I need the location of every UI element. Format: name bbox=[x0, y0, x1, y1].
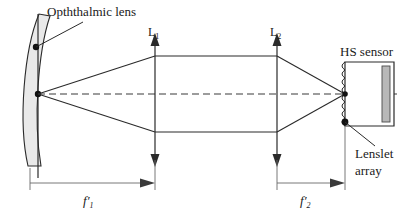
hs-sensor-label: HS sensor bbox=[340, 44, 394, 59]
ophthalmic-lens-body bbox=[23, 14, 50, 166]
ray-lower-diverging bbox=[38, 94, 155, 132]
focal-2-subscript: 2 bbox=[306, 201, 310, 210]
lens-L2-label: L2 bbox=[270, 25, 281, 41]
dim-f1-arrowhead bbox=[140, 179, 155, 188]
lens-L2-label-letter: L bbox=[270, 25, 277, 39]
ray-bundle-converging bbox=[277, 56, 345, 132]
dim-f2-arrowhead bbox=[330, 179, 345, 188]
ray-upper-diverging bbox=[38, 56, 155, 94]
focal-length-1-label: f′1 bbox=[83, 193, 93, 210]
lens-L1-label-subscript: 1 bbox=[155, 32, 159, 41]
lens-L1-label-letter: L bbox=[148, 25, 155, 39]
optical-diagram-figure: Opththalmic lens L1 L2 HS sensor Lenslet… bbox=[0, 0, 417, 211]
focal-1-subscript: 1 bbox=[89, 201, 93, 210]
dimension-f-prime-2 bbox=[277, 179, 345, 188]
lenslet-array-label-line1: Lenslet bbox=[355, 146, 394, 161]
lenslet-array-focus-dot bbox=[342, 91, 348, 97]
ophthalmic-lens-label: Opththalmic lens bbox=[47, 4, 136, 19]
focal-length-2-label: f′2 bbox=[300, 193, 310, 210]
lens-L1-label: L1 bbox=[148, 25, 159, 41]
lenslet-array-label-line2: array bbox=[355, 163, 382, 178]
dimension-f-prime-1 bbox=[30, 168, 155, 190]
ophthalmic-lens-group bbox=[23, 14, 50, 178]
lens-L2-label-subscript: 2 bbox=[277, 32, 281, 41]
detector-plane-bar bbox=[382, 66, 390, 122]
optical-ray-diagram-canvas: Opththalmic lens L1 L2 HS sensor Lenslet… bbox=[0, 0, 417, 211]
ray-upper-converging bbox=[277, 56, 345, 94]
ray-lower-converging bbox=[277, 94, 345, 132]
